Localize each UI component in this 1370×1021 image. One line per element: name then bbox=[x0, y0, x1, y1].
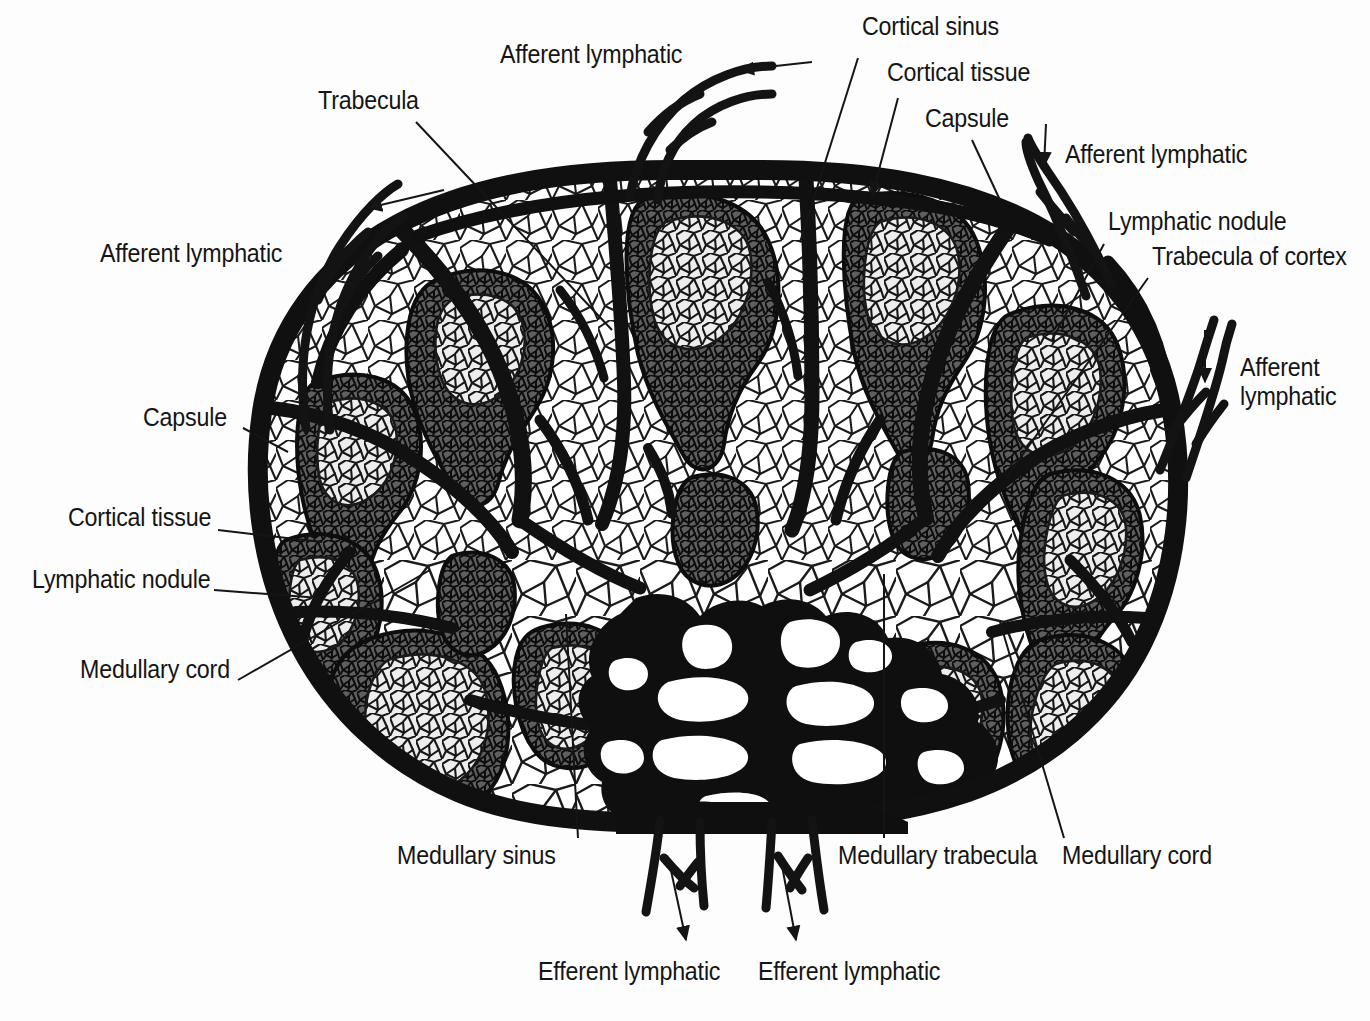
label-afferent-lymphatic-top: Afferent lymphatic bbox=[500, 40, 682, 69]
label-medullary-cord-right: Medullary cord bbox=[1062, 841, 1212, 870]
label-efferent-lymphatic-right: Efferent lymphatic bbox=[758, 957, 940, 986]
label-trabecula: Trabecula bbox=[318, 86, 419, 115]
label-afferent-lymphatic-left: Afferent lymphatic bbox=[100, 239, 282, 268]
label-capsule-left: Capsule bbox=[143, 403, 227, 432]
label-capsule-top: Capsule bbox=[925, 104, 1009, 133]
label-medullary-cord-left: Medullary cord bbox=[80, 655, 230, 684]
label-lymphatic-nodule-left: Lymphatic nodule bbox=[32, 565, 210, 594]
figure-canvas: Afferent lymphatic Cortical sinus Cortic… bbox=[0, 0, 1370, 1021]
label-cortical-tissue-left: Cortical tissue bbox=[68, 503, 211, 532]
label-afferent-lymphatic-right: Afferent lymphatic bbox=[1240, 353, 1337, 411]
label-efferent-lymphatic-left: Efferent lymphatic bbox=[538, 957, 720, 986]
label-lymphatic-nodule-right: Lymphatic nodule bbox=[1108, 207, 1286, 236]
label-trabecula-of-cortex: Trabecula of cortex bbox=[1152, 242, 1347, 271]
lymph-node-body bbox=[250, 160, 1200, 840]
label-medullary-trabecula: Medullary trabecula bbox=[838, 841, 1037, 870]
lymphatic-nodule bbox=[673, 474, 758, 585]
label-medullary-sinus: Medullary sinus bbox=[397, 841, 556, 870]
label-afferent-lymphatic-upper-right: Afferent lymphatic bbox=[1065, 140, 1247, 169]
label-cortical-tissue-top: Cortical tissue bbox=[887, 58, 1030, 87]
label-cortical-sinus: Cortical sinus bbox=[862, 12, 999, 41]
